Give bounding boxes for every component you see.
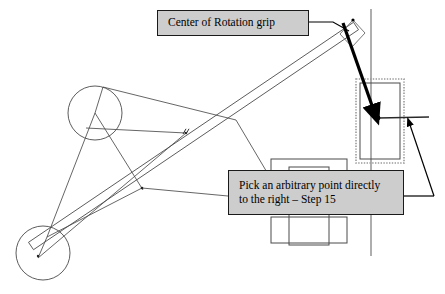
link-mid-horizontal [86,128,186,133]
slider-rail-bottom [271,217,347,243]
lower-pivot-circle [16,226,70,280]
link-callout-leader-left [142,188,228,196]
selection-marquee[interactable] [356,79,404,163]
link-lower-diagonal [47,188,142,237]
lower-center-point[interactable] [37,255,39,257]
callout-center-of-rotation[interactable]: Center of Rotation grip [157,10,309,36]
grip-pointer-arrow [343,23,375,114]
arbitrary-point-dot[interactable] [376,116,381,121]
target-rectangle [360,83,400,159]
link-upper-lower [47,113,95,237]
tick-mark-stroke-b [186,129,189,134]
rotating-bar [29,22,359,249]
diagram-canvas: Center of Rotation grip Pick an arbitrar… [0,0,445,294]
lower-node-point[interactable] [141,187,144,190]
link-truss-right [236,120,268,174]
callout-arbitrary-point-text: Pick an arbitrary point directly to the … [239,179,403,206]
link-lower-chord [38,133,186,258]
mid-tick-group [183,129,189,134]
rotating-bar-group [29,18,366,249]
link-lower-brace [38,237,47,258]
bar-end-grip-dot[interactable] [351,18,354,21]
point-pointer-arrow [409,122,434,196]
callout-center-of-rotation-text: Center of Rotation grip [168,16,308,30]
point-horizontal-line [378,117,429,118]
diagram-vector-layer [0,0,445,294]
link-upper-left [95,87,103,113]
pivot-circles-group [16,86,122,280]
callout-arbitrary-point[interactable]: Pick an arbitrary point directly to the … [228,170,404,215]
